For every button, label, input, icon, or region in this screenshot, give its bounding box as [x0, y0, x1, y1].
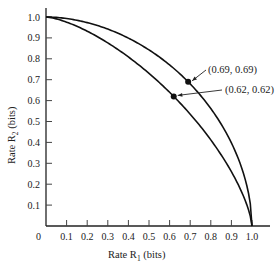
rate-region-chart: 0.10.20.30.40.50.60.70.80.91.00.10.20.30…	[0, 0, 280, 263]
axes: 0.10.20.30.40.50.60.70.80.91.00.10.20.30…	[28, 8, 271, 242]
point-marker	[171, 93, 177, 99]
x-axis-title: Rate R1 (bits)	[108, 249, 166, 263]
outer-curve	[46, 17, 252, 226]
y-tick-label: 0.1	[28, 200, 41, 211]
origin-label: 0	[36, 231, 41, 242]
x-tick-label: 0.7	[184, 231, 197, 242]
point-annotation-outer: (0.69, 0.69)	[208, 64, 257, 76]
inner-curve	[46, 17, 252, 226]
x-tick-label: 1.0	[246, 231, 259, 242]
x-tick-label: 0.4	[122, 231, 135, 242]
x-tick-label: 0.3	[102, 231, 115, 242]
x-tick-label: 0.2	[81, 231, 94, 242]
y-tick-label: 0.2	[28, 179, 41, 190]
y-tick-label: 0.5	[28, 116, 41, 127]
y-tick-label: 0.4	[28, 137, 41, 148]
x-tick-label: 0.5	[143, 231, 156, 242]
point-marker	[185, 79, 191, 85]
y-tick-label: 0.3	[28, 158, 41, 169]
y-tick-label: 1.0	[28, 12, 41, 23]
arrowhead-icon	[178, 93, 183, 97]
x-tick-label: 0.8	[205, 231, 218, 242]
curves	[46, 17, 252, 226]
x-tick-label: 0.9	[225, 231, 238, 242]
annotations: (0.69, 0.69)(0.62, 0.62)	[171, 64, 275, 99]
y-tick-label: 0.9	[28, 32, 41, 43]
y-tick-label: 0.6	[28, 95, 41, 106]
y-tick-label: 0.7	[28, 74, 41, 85]
x-tick-label: 0.6	[163, 231, 176, 242]
y-axis-title: Rate R2 (bits)	[6, 106, 20, 164]
x-tick-label: 0.1	[60, 231, 73, 242]
y-tick-label: 0.8	[28, 53, 41, 64]
point-annotation-inner: (0.62, 0.62)	[225, 84, 274, 96]
